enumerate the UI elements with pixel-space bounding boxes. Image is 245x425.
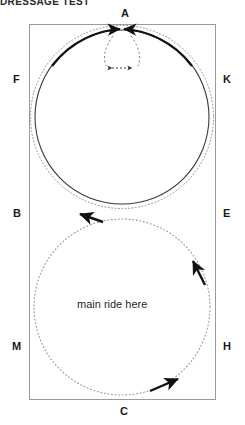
dashed-guide-left (104, 36, 113, 66)
marker-c: C (120, 406, 128, 417)
marker-h: H (223, 341, 231, 352)
arena-rectangle (30, 25, 216, 400)
marker-b: B (13, 208, 21, 219)
marker-a: A (121, 8, 129, 19)
arrow-up-right-icon (150, 379, 178, 391)
arrow-converge-left-icon (52, 29, 120, 66)
marker-f: F (13, 74, 20, 85)
arrow-down-left-icon (80, 214, 103, 222)
upper-circle-dotted (31, 26, 214, 209)
marker-m: M (12, 341, 21, 352)
marker-e: E (223, 208, 230, 219)
dashed-guide-right (131, 36, 140, 66)
main-ride-annotation: main ride here (77, 298, 147, 310)
arena-canvas (0, 0, 245, 425)
marker-k: K (223, 74, 231, 85)
arena-diagram: DRESSAGE TEST (0, 0, 245, 425)
arrow-converge-right-icon (124, 29, 192, 66)
